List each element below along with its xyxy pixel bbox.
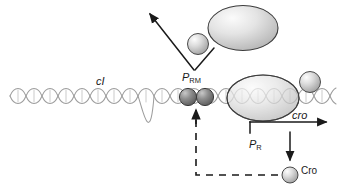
gene-label-ci: cI xyxy=(96,76,105,87)
promoter-label-pr: PR xyxy=(249,139,262,150)
cro-repression-dashed-path xyxy=(196,117,278,175)
promoter-label-prm-subscript: RM xyxy=(189,76,201,85)
pr-transcription-arrow xyxy=(250,122,326,133)
gene-label-cro: cro xyxy=(292,110,307,121)
ci-repressor-monomer-2 xyxy=(196,88,213,105)
figure-canvas: cI PRM cro PR Cro xyxy=(0,0,345,195)
lambda-switch-diagram xyxy=(0,0,345,195)
sigma-subunit-sphere xyxy=(188,34,209,55)
protein-label-cro: Cro xyxy=(301,166,317,176)
rna-polymerase-ellipse-bound xyxy=(227,75,299,121)
promoter-label-pr-subscript: R xyxy=(256,143,261,152)
cro-protein-sphere xyxy=(282,167,298,183)
rna-polymerase-ellipse xyxy=(208,6,278,51)
ci-repressor-monomer-1 xyxy=(179,88,196,105)
promoter-label-prm: PRM xyxy=(182,72,201,83)
sigma-subunit-sphere-bound xyxy=(300,72,321,93)
